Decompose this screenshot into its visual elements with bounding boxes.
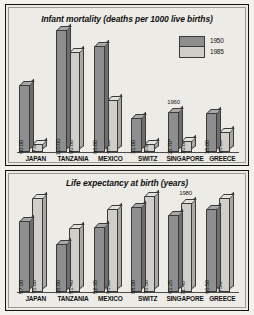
bar-side-face [67,237,71,289]
bar-value-label: 38.80 [55,280,62,294]
legend-item-1985: 1985 [179,47,235,58]
bar-group: 31.006.90 [129,30,166,152]
bar-tanzania-1950: 38.80 [56,244,67,293]
bar-side-face [118,203,122,289]
bar-front-face: 96.00 [94,46,105,152]
bar-side-face [118,94,122,149]
bar-group: 110.0090.00 [54,30,91,152]
bar-switz-1950: 31.00 [131,118,142,152]
bar-front-face: 110.00 [56,30,67,152]
bar-mexico-1950: 96.00 [94,46,105,152]
category-label-japan: JAPAN [17,295,54,302]
bar-side-face [30,215,34,289]
bar-year-annotation: 1980 [179,190,192,196]
bar-group: 60.007.00 [17,30,54,152]
bar-group: 38.8051.40 [54,192,91,292]
category-label-mexico: MEXICO [92,295,129,302]
bar-side-face [230,192,234,289]
bar-front-face: 35.70* [168,112,179,152]
category-label-tanzania: TANZANIA [54,295,91,302]
bar-front-face: 68.00 [131,207,142,292]
bar-side-face [105,39,109,149]
category-label-tanzania: TANZANIA [54,155,91,162]
category-label-switz: SWITZ [129,295,166,302]
bar-value-label: 66.50 [204,280,211,294]
bar-value-label: 96.00 [92,140,99,154]
bar-mexico-1950: 52.35 [94,227,105,292]
chart-page: Infant mortality (deaths per 1000 live b… [0,0,254,315]
bar-tanzania-1950: 110.00 [56,30,67,152]
life-expectancy-frame: Life expectancy at birth (years) 57.0075… [8,173,246,308]
category-label-singapore: SINGAPORE [166,155,203,162]
category-label-mexico: MEXICO [92,155,129,162]
bar-front-face: 52.35 [94,227,105,292]
bar-side-face [80,46,84,149]
bar-value-label: 52.35 [92,280,99,294]
bar-side-face [155,190,159,289]
bar-side-face [192,197,196,289]
bar-front-face: 66.50 [206,209,217,292]
bar-value-label: 68.00 [130,280,137,294]
infant-mortality-panel: Infant mortality (deaths per 1000 live b… [5,4,249,166]
bar-front-face: 60.00 [19,85,30,152]
category-label-greece: GREECE [204,155,241,162]
bar-value-label: 60.00 [18,140,25,154]
infant-mortality-title: Infant mortality (deaths per 1000 live b… [9,14,245,24]
bar-side-face [67,24,71,149]
bar-side-face [179,106,183,149]
bar-side-face [217,203,221,289]
bar-front-face: 35.00 [206,113,217,152]
bar-singapore-1950: 35.70* [168,112,179,152]
life-expectancy-panel: Life expectancy at birth (years) 57.0075… [5,170,249,311]
bar-group: 96.0047.00 [92,30,129,152]
bar-front-face: 61.25 [168,215,179,292]
bar-singapore-1950: 61.25 [168,215,179,292]
bar-side-face [179,209,183,289]
chart-legend: 1950 1985 [179,36,235,58]
bar-value-label: 31.00 [130,140,137,154]
legend-item-1950: 1950 [179,36,235,47]
bar-side-face [80,222,84,289]
infant-mortality-category-labels: JAPANTANZANIAMEXICOSWITZSINGAPOREGREECE [17,155,241,166]
life-expectancy-title: Life expectancy at birth (years) [9,178,245,188]
legend-swatch-1985 [179,47,205,58]
infant-mortality-frame: Infant mortality (deaths per 1000 live b… [8,7,246,163]
bar-side-face [30,79,34,149]
bar-value-label: 35.70* [167,139,174,155]
bar-value-label: 61.25 [167,280,174,294]
legend-swatch-1950 [179,36,205,47]
bar-front-face: 38.80 [56,244,67,293]
category-label-singapore: SINGAPORE [166,295,203,302]
category-label-greece: GREECE [204,295,241,302]
bar-side-face [43,192,47,289]
legend-label-1985: 1985 [210,48,224,55]
life-expectancy-category-labels: JAPANTANZANIAMEXICOSWITZSINGAPOREGREECE [17,295,241,307]
bar-group: 66.5075.0 [204,192,241,292]
bar-front-face: 57.00 [19,221,30,292]
bar-front-face: 31.00 [131,118,142,152]
bar-value-label: 110.00 [55,139,62,156]
bar-group: 52.3566.50 [92,192,129,292]
bar-group: 57.0075.00 [17,192,54,292]
bar-side-face [142,201,146,289]
bar-year-annotation: 1960 [167,99,180,105]
bar-side-face [105,220,109,289]
bar-value-label: 35.00 [204,140,211,154]
bar-greece-1950: 35.00 [206,113,217,152]
bar-switz-1950: 68.00 [131,207,142,292]
bar-japan-1950: 60.00 [19,85,30,152]
bar-group: 68.0076.50 [129,192,166,292]
bar-greece-1950: 66.50 [206,209,217,292]
legend-label-1950: 1950 [210,37,224,44]
category-label-japan: JAPAN [17,155,54,162]
bar-value-label: 57.00 [18,280,25,294]
bar-japan-1950: 57.00 [19,221,30,292]
category-label-switz: SWITZ [129,155,166,162]
life-expectancy-plot: 57.0075.0038.8051.4052.3566.5068.0076.50… [17,192,241,292]
bar-group: 61.2571.40*1980 [166,192,203,292]
